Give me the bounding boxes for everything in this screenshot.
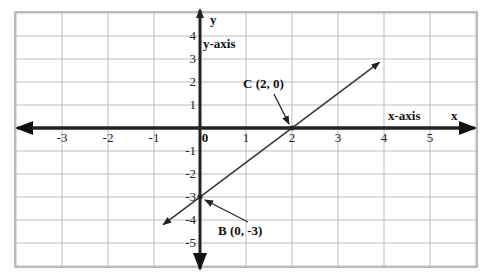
y-tick-label: -2 xyxy=(185,166,196,181)
x-axis-label: x-axis xyxy=(388,108,421,123)
x-tick-label: 4 xyxy=(381,130,388,145)
y-tick-label: 2 xyxy=(190,74,197,89)
point-marker xyxy=(290,126,295,131)
x-tick-label: -1 xyxy=(149,130,160,145)
x-tick-label: 2 xyxy=(289,130,296,145)
y-tick-label: 3 xyxy=(190,51,197,66)
y-tick-label: -5 xyxy=(185,235,196,250)
x-tick-label: 0 xyxy=(202,130,209,145)
x-tick-label: 1 xyxy=(243,130,250,145)
y-axis-label: y-axis xyxy=(203,36,236,51)
x-tick-label: -2 xyxy=(103,130,114,145)
coordinate-plane: -3-2-10123454321-1-2-3-4-5 C (2, 0)B (0,… xyxy=(0,0,493,275)
x-tick-label: -3 xyxy=(57,130,68,145)
y-tick-label: 4 xyxy=(190,28,197,43)
x-tick-label: 3 xyxy=(335,130,342,145)
point-marker xyxy=(198,195,203,200)
x-tick-label: 5 xyxy=(427,130,434,145)
x-axis-letter: x xyxy=(451,108,458,123)
point-label-c: C (2, 0) xyxy=(243,76,284,91)
y-tick-label: -1 xyxy=(185,143,196,158)
y-axis-letter: y xyxy=(210,12,217,27)
y-tick-label: -4 xyxy=(185,212,196,227)
point-label-b: B (0, -3) xyxy=(218,223,262,238)
y-tick-label: 1 xyxy=(190,97,197,112)
